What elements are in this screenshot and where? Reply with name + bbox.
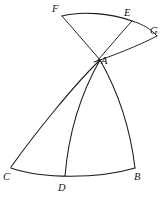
- line-f-a: [62, 16, 101, 61]
- point-label-e: E: [124, 8, 131, 19]
- curve-a-c: [11, 60, 100, 167]
- arc-c-b: [11, 168, 135, 176]
- curve-a-b: [100, 60, 135, 168]
- point-label-b: B: [134, 172, 141, 183]
- point-label-g: G: [150, 26, 158, 37]
- point-label-f: F: [52, 4, 59, 15]
- point-label-a: A: [101, 56, 108, 67]
- point-label-c: C: [3, 172, 10, 183]
- geometric-figure: F E G A C D B: [0, 0, 166, 204]
- figure-canvas: [0, 0, 166, 204]
- arc-f-e: [62, 13, 132, 21]
- point-label-d: D: [58, 183, 66, 194]
